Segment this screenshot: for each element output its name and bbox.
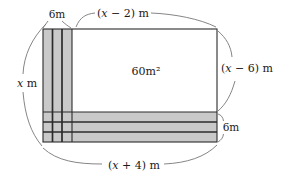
label-top-width: (x − 2) m [97, 7, 150, 20]
arc-top-right [151, 13, 216, 27]
arc-bottom-left [43, 148, 102, 164]
arc-top-left [76, 13, 95, 27]
arc-6m-right-lower [218, 134, 224, 142]
label-bottom-width: (x + 4) m [108, 159, 161, 172]
arc-left-lower [23, 92, 42, 146]
label-left-height: x m [17, 77, 38, 90]
label-area: 60m² [132, 65, 161, 78]
arc-right-lower [218, 81, 235, 111]
diagram-canvas: 6m (x − 2) m x m 60m² (x − 6) m 6m (x + … [0, 0, 283, 184]
bottom-strip [43, 112, 217, 142]
geometry-diagram: 6m (x − 2) m x m 60m² (x − 6) m 6m (x + … [0, 0, 283, 184]
label-strip-width-top: 6m [49, 8, 66, 20]
label-right-height: (x − 6) m [221, 62, 274, 75]
arc-bottom-right [164, 145, 217, 164]
tick-6m-right [62, 21, 71, 28]
arc-6m-right-upper [218, 114, 224, 121]
arc-right-upper [218, 31, 232, 57]
label-strip-height-right: 6m [223, 121, 240, 133]
